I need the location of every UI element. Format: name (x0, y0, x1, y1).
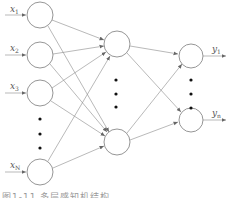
input-node-x2 (27, 42, 53, 68)
ellipsis-dot (114, 78, 117, 81)
ellipsis-dot (189, 78, 192, 81)
ellipsis-dot (189, 106, 192, 109)
ellipsis-dot (38, 146, 41, 149)
ellipsis-dot (114, 105, 117, 108)
ellipsis-dot (38, 117, 41, 120)
label-x1: x1 (10, 4, 19, 15)
output-node-y1 (179, 44, 203, 68)
output-node-yn (179, 108, 203, 132)
label-yn: yn (211, 108, 221, 119)
input-node-x3 (27, 80, 53, 106)
input-hidden-edges (48, 20, 110, 168)
label-y1: y1 (211, 44, 221, 55)
ellipsis-dot (114, 92, 117, 95)
hidden-layer (104, 31, 130, 155)
hidden-output-edges (127, 46, 182, 140)
output-layer (179, 44, 203, 132)
label-xN: xN (10, 160, 20, 171)
label-x3: x3 (10, 81, 19, 92)
input-node-x1 (27, 2, 53, 28)
input-arrows (5, 15, 26, 172)
neural-network-diagram: x1 x2 x3 xN y1 yn (0, 0, 229, 198)
ellipsis-dot (189, 92, 192, 95)
hidden-node-m (104, 129, 130, 155)
ellipsis-dot (38, 132, 41, 135)
hidden-node-1 (104, 31, 130, 57)
input-layer (27, 2, 53, 185)
figure-caption: 图1-11 多层感知机结构 (2, 191, 110, 198)
label-x2: x2 (10, 43, 19, 54)
input-node-xN (27, 159, 53, 185)
